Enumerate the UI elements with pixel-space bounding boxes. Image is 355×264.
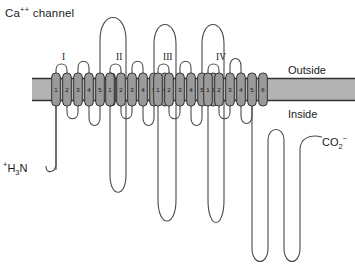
domain-2-segment-1: 1 <box>106 73 115 106</box>
domain-numeral-4: IV <box>216 52 226 62</box>
domain-1-segment-2: 2 <box>63 73 72 106</box>
domain-1-segment-4: 4 <box>85 73 94 106</box>
domain-2-segment-2: 2 <box>117 73 126 106</box>
diagram-canvas: 123456123456123456123456 <box>0 0 355 264</box>
outside-label: Outside <box>288 64 326 76</box>
c-terminus-label: CO2− <box>322 134 347 151</box>
domain-numeral-2: II <box>116 52 122 62</box>
linker-1-2 <box>110 101 126 192</box>
domain-1-segment-5: 5 <box>96 73 105 106</box>
c-terminal-tail <box>252 101 322 262</box>
domain-1-segment-1: 1 <box>52 73 61 106</box>
domain-3-segment-1: 1 <box>154 73 163 106</box>
domain-4-segment-3: 3 <box>226 73 235 106</box>
domain-3-segment-2: 2 <box>165 73 174 106</box>
title-rest: channel <box>29 7 74 19</box>
domain-numeral-1: I <box>62 52 65 62</box>
n-terminal-tail <box>46 101 56 172</box>
domain-1-s6-tall-loop <box>100 18 126 79</box>
inside-label: Inside <box>288 108 317 120</box>
n-terminus-tail: N <box>20 162 28 174</box>
domain-4-segment-4: 4 <box>237 73 246 106</box>
linker-3-4 <box>208 101 224 223</box>
domain-3-segment-3: 3 <box>176 73 185 106</box>
domain-4-segment-6: 6 <box>259 73 268 106</box>
ca-channel-diagram: 123456123456123456123456 Ca++ channel Ou… <box>0 0 355 264</box>
domain-1-segment-3: 3 <box>74 73 83 106</box>
c-terminus-charge: − <box>343 134 347 143</box>
title-base: Ca <box>5 7 20 19</box>
c-terminus-count: 2 <box>339 142 343 151</box>
domain-4-segment-2: 2 <box>215 73 224 106</box>
polypeptide-chain <box>46 18 322 262</box>
n-terminus-label: +H3N <box>3 160 27 177</box>
domain-3-segment-4: 4 <box>187 73 196 106</box>
figure-title: Ca++ channel <box>5 5 74 19</box>
domain-4-segment-5: 5 <box>248 73 257 106</box>
domain-2-segment-3: 3 <box>128 73 137 106</box>
domain-numeral-3: III <box>163 52 173 62</box>
domain-4-segment-1: 1 <box>204 73 213 106</box>
domain-2-segment-4: 4 <box>139 73 148 106</box>
c-terminus-base: CO <box>322 136 339 148</box>
title-superscript: ++ <box>20 5 29 14</box>
